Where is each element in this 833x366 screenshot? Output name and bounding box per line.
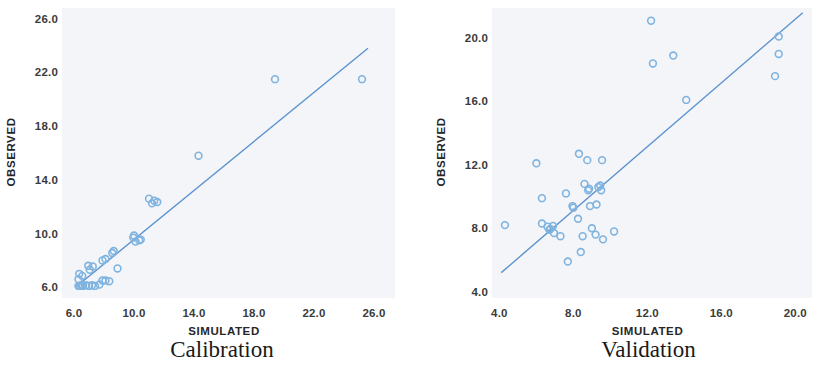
scatter-point: [195, 152, 202, 159]
scatter-point: [539, 195, 546, 202]
panel-caption-calibration: Calibration: [0, 337, 420, 363]
scatter-point: [564, 258, 571, 265]
y-axis-title-calibration: OBSERVED: [5, 117, 17, 186]
regression-line: [76, 48, 369, 287]
x-axis-tick-label: 20.0: [784, 307, 807, 319]
x-axis-tick-label: 14.0: [182, 307, 205, 319]
scatter-point: [683, 97, 690, 104]
scatter-point: [114, 265, 121, 272]
y-axis-tick-label: 16.0: [465, 95, 488, 107]
x-axis-tick-label: 16.0: [710, 307, 733, 319]
scatter-plot-calibration: [62, 8, 395, 298]
y-axis-tick-label: 18.0: [35, 120, 58, 132]
x-axis-tick-label: 8.0: [565, 307, 582, 319]
scatter-plot-validation: [492, 8, 812, 298]
scatter-point: [110, 248, 117, 255]
scatter-point: [584, 157, 591, 164]
plot-area-calibration: [62, 8, 395, 298]
x-axis-tick-label: 18.0: [242, 307, 265, 319]
plot-area-validation: [492, 8, 812, 298]
scatter-point: [272, 76, 279, 83]
scatter-point: [648, 17, 655, 24]
scatter-point: [533, 160, 540, 167]
x-axis-tick-label: 26.0: [362, 307, 385, 319]
chart-panel-validation: 4.08.012.016.020.0 4.08.012.016.020.0 OB…: [420, 0, 833, 366]
regression-line: [501, 13, 803, 273]
x-axis-tick-label: 12.0: [636, 307, 659, 319]
scatter-point: [611, 228, 618, 235]
scatter-point: [563, 190, 570, 197]
x-axis-title-calibration: SIMULATED: [0, 325, 420, 337]
scatter-point: [575, 215, 582, 222]
y-axis-tick-label: 10.0: [35, 228, 58, 240]
scatter-point: [577, 249, 584, 256]
scatter-point: [359, 76, 366, 83]
scatter-point: [775, 51, 782, 58]
scatter-point: [579, 233, 586, 240]
scatter-point: [599, 157, 606, 164]
x-axis-ticks-validation: 4.08.012.016.020.0: [420, 307, 833, 323]
y-axis-tick-label: 26.0: [35, 13, 58, 25]
y-axis-tick-label: 22.0: [35, 66, 58, 78]
x-axis-tick-label: 6.0: [66, 307, 83, 319]
scatter-point: [557, 233, 564, 240]
scatter-point: [592, 231, 599, 238]
y-axis-tick-label: 14.0: [35, 174, 58, 186]
panel-caption-validation: Validation: [420, 337, 833, 363]
figure-panels: 6.010.014.018.022.026.0 6.010.014.018.02…: [0, 0, 833, 366]
x-axis-title-validation: SIMULATED: [420, 325, 833, 337]
scatter-point: [772, 73, 779, 80]
scatter-point: [600, 236, 607, 243]
y-axis-tick-label: 12.0: [465, 159, 488, 171]
scatter-point: [650, 60, 657, 67]
x-axis-ticks-calibration: 6.010.014.018.022.026.0: [0, 307, 420, 323]
chart-panel-calibration: 6.010.014.018.022.026.0 6.010.014.018.02…: [0, 0, 420, 366]
y-axis-tick-label: 6.0: [41, 281, 58, 293]
y-axis-title-validation: OBSERVED: [435, 117, 447, 186]
scatter-point: [670, 52, 677, 59]
x-axis-tick-label: 10.0: [122, 307, 145, 319]
scatter-point: [576, 150, 583, 157]
x-axis-tick-label: 4.0: [491, 307, 508, 319]
y-axis-tick-label: 20.0: [465, 32, 488, 44]
scatter-point: [593, 201, 600, 208]
x-axis-tick-label: 22.0: [302, 307, 325, 319]
scatter-point: [502, 222, 509, 229]
y-axis-tick-label: 4.0: [471, 286, 488, 298]
y-axis-tick-label: 8.0: [471, 222, 488, 234]
